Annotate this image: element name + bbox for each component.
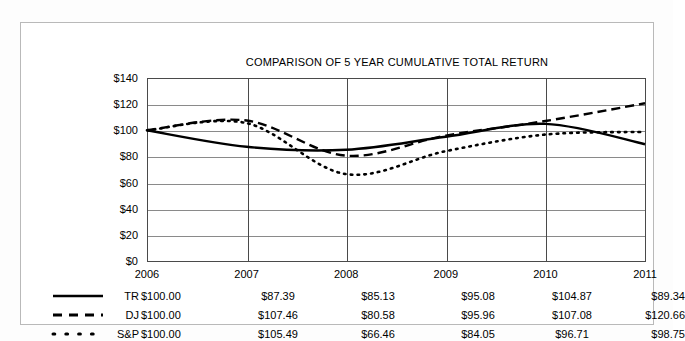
series-line-tr bbox=[147, 124, 645, 151]
legend-value-cell: $66.46 bbox=[335, 328, 421, 340]
legend-table-row: TR$100.00$87.39$85.13$95.08$104.87$89.34 bbox=[49, 287, 659, 306]
x-axis-tick-label: 2007 bbox=[207, 268, 287, 280]
y-axis-tick-label: $20 bbox=[76, 230, 138, 241]
y-axis-tick-label: $80 bbox=[76, 151, 138, 162]
legend-line-sample-dashed bbox=[49, 306, 107, 325]
legend-table-row: DJ$100.00$107.46$80.58$95.96$107.08$120.… bbox=[49, 306, 659, 325]
legend-value-cell: $120.66 bbox=[615, 309, 685, 321]
chart-frame-border: COMPARISON OF 5 YEAR CUMULATIVE TOTAL RE… bbox=[20, 22, 654, 325]
x-axis-tick-label: 2008 bbox=[306, 268, 386, 280]
legend-value-cell: $84.05 bbox=[435, 328, 521, 340]
y-axis-tick-label: $100 bbox=[76, 125, 138, 136]
legend-line-sample-solid bbox=[49, 287, 107, 306]
x-axis-tick-label: 2010 bbox=[505, 268, 585, 280]
chart-title: COMPARISON OF 5 YEAR CUMULATIVE TOTAL RE… bbox=[147, 56, 647, 68]
legend-value-cell: $107.08 bbox=[529, 309, 615, 321]
legend-value-cell: $105.49 bbox=[235, 328, 321, 340]
legend-value-cell: $80.58 bbox=[335, 309, 421, 321]
legend-value-cell: $100.00 bbox=[141, 309, 227, 321]
legend-table-row: S&P$100.00$105.49$66.46$84.05$96.71$98.7… bbox=[49, 325, 659, 341]
y-axis-tick-label: $120 bbox=[76, 99, 138, 110]
legend-value-cell: $85.13 bbox=[335, 290, 421, 302]
legend-value-cell: $89.34 bbox=[615, 290, 685, 302]
legend-series-name: DJ bbox=[107, 309, 139, 321]
x-axis-tick-label: 2011 bbox=[605, 268, 685, 280]
series-line-dj bbox=[147, 103, 645, 156]
y-axis-tick-label: $40 bbox=[76, 204, 138, 215]
legend-value-cell: $87.39 bbox=[235, 290, 321, 302]
y-axis-tick-label: $60 bbox=[76, 178, 138, 189]
legend-data-table: TR$100.00$87.39$85.13$95.08$104.87$89.34… bbox=[49, 287, 659, 341]
legend-value-cell: $107.46 bbox=[235, 309, 321, 321]
legend-value-cell: $104.87 bbox=[529, 290, 615, 302]
x-axis-tick-label: 2009 bbox=[406, 268, 486, 280]
legend-series-name: TR bbox=[107, 290, 139, 302]
legend-value-cell: $96.71 bbox=[529, 328, 615, 340]
x-axis-tick-label: 2006 bbox=[107, 268, 187, 280]
legend-value-cell: $100.00 bbox=[141, 290, 227, 302]
legend-value-cell: $95.96 bbox=[435, 309, 521, 321]
legend-value-cell: $98.75 bbox=[615, 328, 685, 340]
series-lines bbox=[147, 78, 646, 262]
legend-value-cell: $100.00 bbox=[141, 328, 227, 340]
y-axis-tick-label: $0 bbox=[76, 256, 138, 267]
legend-line-sample-dotted bbox=[49, 325, 107, 341]
legend-series-name: S&P bbox=[107, 328, 139, 340]
y-axis-tick-label: $140 bbox=[76, 73, 138, 84]
legend-value-cell: $95.08 bbox=[435, 290, 521, 302]
